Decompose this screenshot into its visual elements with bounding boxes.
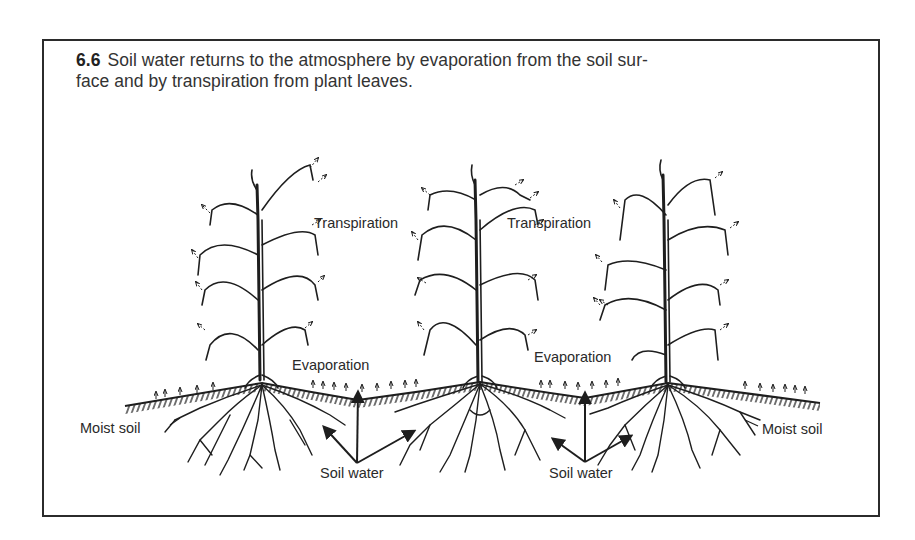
corn-plant-1: [198, 165, 318, 388]
label-moist-soil-left: Moist soil: [80, 420, 140, 436]
label-transpiration-2: Transpiration: [507, 215, 591, 231]
label-soil-water-1: Soil water: [320, 465, 384, 481]
label-transpiration-1: Transpiration: [314, 215, 398, 231]
corn-plant-2: [415, 165, 538, 388]
roots: [165, 384, 760, 475]
label-moist-soil-right: Moist soil: [762, 421, 822, 437]
corn-plant-3: [600, 160, 728, 388]
soil-water-illustration: [0, 0, 915, 540]
label-evaporation-2: Evaporation: [534, 349, 611, 365]
label-soil-water-2: Soil water: [549, 465, 613, 481]
transpiration-arrows: [192, 158, 738, 335]
label-evaporation-1: Evaporation: [292, 357, 369, 373]
